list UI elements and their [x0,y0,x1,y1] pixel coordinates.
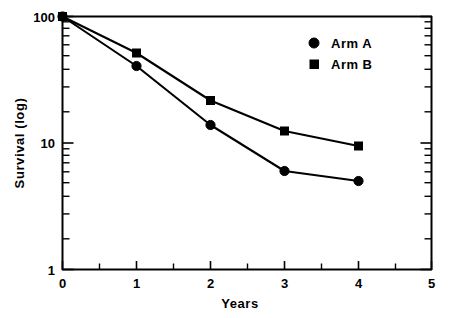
legend-marker-circle-icon [309,38,319,48]
series-arm-a-point [280,166,289,175]
series-arm-a-point [354,176,363,185]
legend-label-arm-a: Arm A [331,36,372,51]
survival-chart: 100 10 1 0 1 2 3 4 5 Years Survival (log… [0,0,452,318]
x-tick-label-4: 4 [355,276,363,291]
y-tick-label-10: 10 [41,136,55,151]
series-arm-b-point [207,97,215,105]
y-axis-ticks [63,17,74,270]
x-axis-ticks [63,261,432,270]
y-axis-ticks-right [421,17,432,270]
legend-label-arm-b: Arm B [331,57,373,72]
y-tick-labels: 100 10 1 [33,10,55,278]
series-arm-a-point [206,120,215,129]
chart-canvas: 100 10 1 0 1 2 3 4 5 Years Survival (log… [0,0,452,318]
x-tick-labels: 0 1 2 3 4 5 [59,276,435,291]
x-tick-label-5: 5 [428,276,435,291]
x-axis-title: Years [221,296,259,311]
x-tick-label-2: 2 [207,276,214,291]
x-tick-label-0: 0 [59,276,66,291]
y-tick-label-100: 100 [33,10,55,25]
chart-legend: Arm A Arm B [309,36,373,72]
y-axis-title: Survival (log) [12,98,27,189]
series-arm-b-point [133,49,141,57]
x-tick-label-1: 1 [133,276,140,291]
series-arm-b-point [355,142,363,150]
y-tick-label-1: 1 [48,263,55,278]
series-arm-a-point [58,12,67,21]
legend-marker-square-icon [310,60,319,69]
series-arm-b-point [281,127,289,135]
x-tick-label-3: 3 [281,276,288,291]
series-arm-a-point [132,61,141,70]
